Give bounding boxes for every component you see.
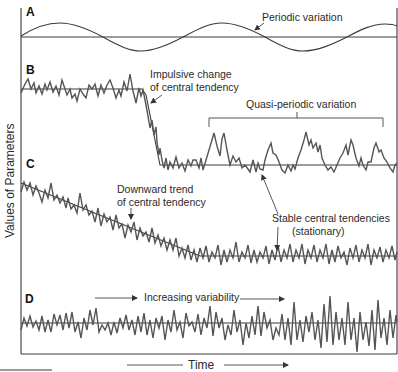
panel-a-label: A <box>26 5 35 19</box>
impulsive-change-label-1: Impulsive change <box>150 68 232 80</box>
panel-b-label: B <box>26 63 35 77</box>
panel-d: D Increasing variability <box>21 291 397 352</box>
quasi-periodic-bracket <box>209 118 383 127</box>
stable-tendencies-label-1: Stable central tendencies <box>272 212 390 224</box>
time-series-diagram: Values of Parameters Time A Periodic var… <box>0 0 398 372</box>
panel-b: B Impulsive change of central tendency Q… <box>21 63 397 173</box>
downward-trend-label-1: Downward trend <box>117 183 194 195</box>
stable-tendencies-label-2: (stationary) <box>292 225 345 237</box>
periodic-variation-arrow <box>255 23 264 30</box>
panel-a: A Periodic variation <box>21 5 397 51</box>
y-axis-title: Values of Parameters <box>3 124 17 239</box>
impulsive-change-arrow <box>151 95 162 103</box>
panel-c-label: C <box>26 157 35 171</box>
panel-c: C Downward trend of central tendency Sta… <box>21 157 397 265</box>
impulsive-change-label-2: of central tendency <box>150 81 239 93</box>
x-axis-title: Time <box>188 358 215 372</box>
panel-d-label: D <box>25 292 34 306</box>
stable-arrow-to-b <box>262 175 278 214</box>
increasing-variability-label: Increasing variability <box>144 291 240 303</box>
x-axis-title-group: Time <box>127 358 288 372</box>
periodic-variation-label: Periodic variation <box>262 11 343 23</box>
downward-trend-label-2: of central tendency <box>117 196 206 208</box>
panel-d-signal <box>21 296 397 352</box>
quasi-periodic-label: Quasi-periodic variation <box>246 98 356 110</box>
